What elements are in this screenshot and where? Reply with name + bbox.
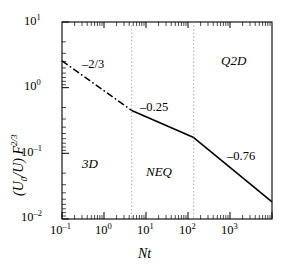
slope-annotation-3d: –2/3 (82, 58, 104, 71)
y-ticklabel-10e1: 101 (24, 15, 41, 28)
x-ticklabel-10e2: 102 (179, 224, 196, 237)
x-ticklabel-10e-1: 10–1 (50, 224, 71, 237)
slope-annotation-q2d: –0.76 (227, 150, 255, 163)
y-axis-title: (U0/U) F2/3 (12, 134, 26, 196)
region-label-3d: 3D (82, 157, 98, 170)
x-axis-title: Nt (138, 247, 151, 261)
figure-root: 101 100 10–1 10–2 10–1 100 101 102 103 N… (0, 0, 301, 270)
region-label-q2d: Q2D (221, 54, 246, 67)
x-ticklabel-10e1: 101 (137, 224, 154, 237)
x-ticklabel-10e0: 100 (95, 224, 112, 237)
y-ticklabel-10e-2: 10–2 (21, 211, 42, 224)
region-label-neq: NEQ (146, 165, 172, 178)
slope-annotation-neq: –0.25 (140, 101, 168, 114)
y-ticklabel-10e0: 100 (24, 80, 41, 93)
x-ticklabel-10e3: 103 (221, 224, 238, 237)
plot-frame (62, 22, 272, 219)
